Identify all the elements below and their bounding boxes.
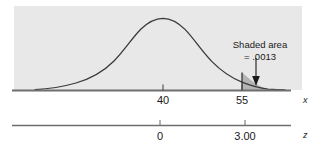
x-tick-label-40: 40: [147, 94, 179, 106]
z-tick-label-0: 0: [144, 130, 176, 142]
shaded-area-annotation: Shaded area = .0013: [214, 39, 306, 62]
normal-distribution-figure: Shaded area = .0013 40 55 x 0 3.00 z: [0, 0, 316, 157]
annotation-line-2: = .0013: [214, 51, 306, 63]
x-axis-label: x: [303, 95, 308, 105]
x-tick-label-55: 55: [226, 94, 258, 106]
z-axis-label: z: [303, 130, 308, 140]
annotation-line-1: Shaded area: [233, 39, 287, 50]
z-tick-label-3: 3.00: [227, 130, 263, 142]
